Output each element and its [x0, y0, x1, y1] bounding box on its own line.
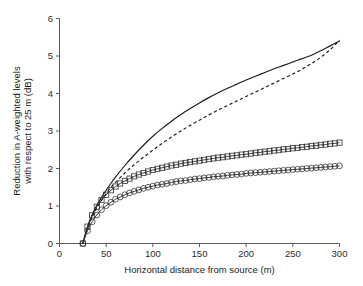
x-tick-label: 300	[332, 248, 348, 259]
y-tick-label: 4	[48, 88, 53, 99]
y-tick-label: 5	[48, 50, 53, 61]
y-axis-ticks: 0123456	[48, 13, 60, 249]
y-tick-label: 6	[48, 13, 53, 24]
series-marker-circle	[85, 228, 91, 234]
series-marker-square	[99, 197, 104, 202]
series-marker-square	[337, 140, 342, 145]
data-series-layer	[80, 40, 342, 246]
y-axis-title: Reduction in A-weighted levels with resp…	[11, 66, 34, 196]
series-solid-curve	[83, 41, 340, 244]
x-tick-label: 100	[145, 248, 161, 259]
x-tick-label: 250	[285, 248, 301, 259]
series-marker-circle	[99, 207, 105, 213]
x-tick-label: 150	[192, 248, 208, 259]
series-marker-circle	[94, 212, 100, 218]
series-line	[83, 40, 340, 243]
y-tick-label: 3	[48, 125, 53, 136]
series-circle-marker-curve	[80, 163, 342, 246]
x-tick-label: 200	[238, 248, 254, 259]
y-axis-title-line1: Reduction in A-weighted levels	[11, 66, 22, 196]
y-tick-label: 2	[48, 163, 53, 174]
y-tick-label: 0	[48, 238, 53, 249]
x-tick-label: 50	[101, 248, 112, 259]
y-axis-title-line2: with respect to 25 m (dB)	[22, 78, 33, 185]
series-marker-circle	[89, 219, 95, 225]
series-marker-circle	[337, 163, 343, 169]
series-line	[83, 41, 340, 244]
y-tick-label: 1	[48, 200, 53, 211]
x-axis-title: Horizontal distance from source (m)	[124, 264, 274, 275]
chart-figure: 0123456 050100150200250300 Horizontal di…	[0, 0, 363, 286]
x-axis-ticks: 050100150200250300	[57, 244, 348, 260]
x-tick-label: 0	[57, 248, 62, 259]
series-square-marker-curve	[80, 140, 342, 246]
series-marker-circle	[80, 241, 86, 247]
series-dashed-curve	[83, 40, 340, 243]
chart-canvas: 0123456 050100150200250300 Horizontal di…	[0, 0, 363, 286]
